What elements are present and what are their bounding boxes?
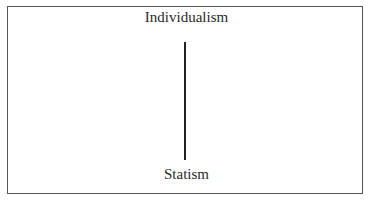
spectrum-axis-line: [184, 42, 186, 160]
top-pole-label: Individualism: [0, 9, 373, 26]
bottom-pole-label: Statism: [0, 166, 373, 183]
